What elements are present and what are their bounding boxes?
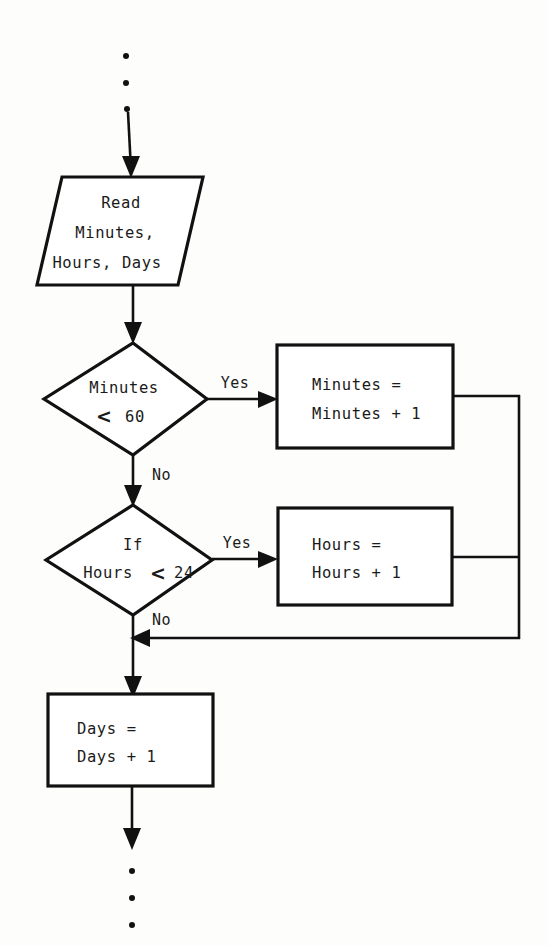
flowchart-page: Read Minutes, Hours, Days Minutes < 60 Y…: [0, 0, 548, 946]
arrowhead-right: [258, 391, 278, 408]
minutes-yes-label: Yes: [221, 374, 249, 392]
decision-hours-value: 24: [174, 564, 194, 582]
read-to-minutes-connector: [124, 285, 142, 344]
process-days-node[interactable]: Days = Days + 1: [48, 694, 213, 786]
process-minutes-line2: Minutes + 1: [312, 405, 421, 423]
hours-yes-label: Yes: [223, 534, 251, 552]
process-hours-node[interactable]: Hours = Hours + 1: [278, 508, 452, 605]
diamond-outline: [46, 505, 212, 615]
process-days-line2: Days + 1: [77, 748, 156, 766]
decision-hours-node[interactable]: If Hours < 24: [46, 505, 212, 615]
arrowhead-down: [124, 322, 142, 344]
read-io-node[interactable]: Read Minutes, Hours, Days: [37, 177, 203, 285]
arrowhead-right: [258, 551, 278, 568]
read-io-line2: Minutes,: [75, 224, 154, 242]
minutes-no-label: No: [152, 466, 171, 484]
less-than-icon: <: [96, 405, 112, 427]
hours-no-edge: No: [124, 611, 171, 698]
process-hours-line1: Hours =: [312, 536, 382, 554]
process-minutes-node[interactable]: Minutes = Minutes + 1: [277, 345, 453, 448]
minutes-no-edge: No: [124, 455, 171, 507]
decision-minutes-line1: Minutes: [89, 379, 159, 397]
rectangle-outline: [278, 508, 452, 605]
decision-minutes-value: 60: [125, 408, 145, 426]
process-hours-line2: Hours + 1: [312, 564, 401, 582]
entry-connector: [122, 112, 140, 178]
ellipsis-dot: [129, 868, 135, 874]
arrowhead-down: [123, 828, 141, 850]
read-io-line3: Hours, Days: [52, 254, 161, 272]
bottom-ellipsis: [129, 868, 135, 928]
hours-no-label: No: [152, 611, 171, 629]
ellipsis-dot: [129, 922, 135, 928]
decision-hours-line1: If: [123, 536, 143, 554]
ellipsis-dot: [129, 895, 135, 901]
top-ellipsis: [123, 53, 130, 112]
rectangle-outline: [277, 345, 453, 448]
flowchart-canvas: Read Minutes, Hours, Days Minutes < 60 Y…: [0, 0, 548, 946]
diamond-outline: [44, 343, 207, 455]
arrowhead-down: [122, 156, 140, 178]
process-days-line1: Days =: [77, 720, 137, 738]
hours-yes-edge: Yes: [212, 534, 278, 568]
ellipsis-dot: [123, 80, 129, 86]
ellipsis-dot: [123, 53, 129, 59]
less-than-icon: <: [150, 562, 166, 584]
exit-connector: [123, 786, 141, 850]
decision-minutes-node[interactable]: Minutes < 60: [44, 343, 207, 455]
process-minutes-line1: Minutes =: [312, 376, 401, 394]
minutes-yes-edge: Yes: [207, 374, 278, 408]
ellipsis-dot: [124, 106, 130, 112]
decision-hours-line2-prefix: Hours: [83, 564, 133, 582]
rectangle-outline: [48, 694, 213, 786]
read-io-line1: Read: [101, 194, 141, 212]
